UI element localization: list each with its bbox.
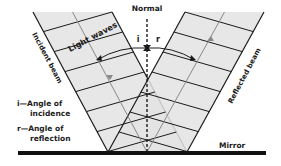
legend-angle-reflection: r—Angle of reflection xyxy=(17,124,71,144)
mirror-label: Mirror xyxy=(219,141,246,150)
legend-r-line1: r—Angle of xyxy=(17,124,71,134)
legend-i-line1: i—Angle of xyxy=(17,99,70,109)
legend-angle-incidence: i—Angle of incidence xyxy=(17,99,70,119)
legend-r-line2: reflection xyxy=(17,134,71,144)
angle-i-label: i xyxy=(137,35,140,44)
vertex-marker-icon xyxy=(143,46,151,51)
angle-r-label: r xyxy=(156,35,160,44)
normal-label: Normal xyxy=(132,4,163,13)
legend-i-line2: incidence xyxy=(17,109,70,119)
